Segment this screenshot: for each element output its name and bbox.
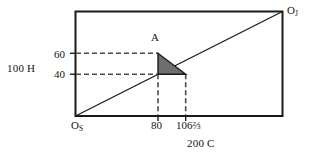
- x-tick-label-106: 106⅔: [176, 120, 201, 131]
- origin-label-os: OS: [71, 120, 83, 131]
- y-tick-label-40: 40: [54, 69, 65, 80]
- corner-label-oj: OJ: [287, 5, 298, 16]
- y-axis-label: 100 H: [7, 63, 35, 74]
- diagram-canvas: [0, 0, 310, 156]
- point-label-a: A: [151, 32, 159, 43]
- corner-letter: O: [287, 4, 295, 16]
- contract-curve-diagram: 100 H 60 40 OS OJ A 80 106⅔ 200 C: [0, 0, 310, 156]
- origin-subscript: S: [79, 124, 83, 133]
- x-tick-label-80: 80: [151, 120, 162, 131]
- y-tick-label-60: 60: [54, 49, 65, 60]
- origin-letter: O: [71, 119, 79, 131]
- corner-subscript: J: [295, 9, 298, 18]
- x-axis-label: 200 C: [187, 138, 215, 149]
